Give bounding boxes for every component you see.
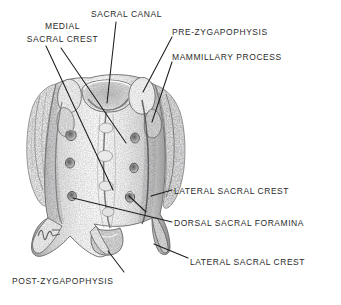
sacral-canal [82,80,134,112]
label-pre-zygapophysis: PRE-ZYGAPOPHYSIS [172,26,268,38]
label-medial-sacral-crest: MEDIAL SACRAL CREST [10,20,115,46]
label-dorsal-sacral-foramina: DORSAL SACRAL FORAMINA [174,217,304,229]
label-mammillary-process: MAMMILLARY PROCESS [172,51,282,63]
label-post-zygapophysis: POST-ZYGAPOPHYSIS [12,275,113,287]
label-medial-sacral-crest-line1: MEDIAL [10,20,115,33]
label-medial-sacral-crest-line2: SACRAL CREST [10,33,115,46]
label-lateral-sacral-crest-upper: LATERAL SACRAL CREST [174,185,289,197]
label-sacral-canal: SACRAL CANAL [91,8,162,20]
label-lateral-sacral-crest-lower: LATERAL SACRAL CREST [190,256,305,268]
anatomy-figure: MEDIAL SACRAL CREST SACRAL CANAL PRE-ZYG… [0,0,341,305]
